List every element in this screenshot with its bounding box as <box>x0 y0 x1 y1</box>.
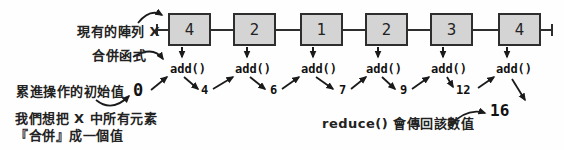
fn-call-add: add() <box>427 62 471 76</box>
accumulator-value: 9 <box>400 83 407 97</box>
fn-call-add: add() <box>362 62 406 76</box>
accumulator-value: 4 <box>201 83 208 97</box>
accumulator-initial-value: 0 <box>133 80 143 100</box>
array-element-box: 4 <box>168 13 211 46</box>
array-element-box: 2 <box>233 13 276 46</box>
fn-call-add: add() <box>297 62 341 76</box>
combine-fn-label: 合併函式 <box>92 48 146 64</box>
fn-call-add: add() <box>166 62 210 76</box>
array-label: 現有的陣列 X <box>77 24 160 40</box>
array-element-box: 1 <box>300 13 343 46</box>
list-right-terminator <box>541 24 552 36</box>
reduce-result-value: 16 <box>490 101 509 120</box>
array-element-box: 3 <box>430 13 473 46</box>
goal-label-line2: 『合併』成一個值 <box>15 128 123 144</box>
box-to-fn-arrows <box>182 47 507 57</box>
accumulator-value: 7 <box>339 83 346 97</box>
reduce-return-label: reduce() 會傳回該數值 <box>322 116 474 132</box>
fn-call-add: add() <box>231 62 275 76</box>
accumulator-value: 6 <box>270 83 277 97</box>
fn-call-add: add() <box>492 62 536 76</box>
goal-label-line1: 我們想把 X 中所有元素 <box>15 111 157 127</box>
array-element-box: 2 <box>365 13 408 46</box>
accumulator-value: 12 <box>456 83 470 97</box>
array-element-box: 4 <box>498 13 541 46</box>
initial-value-label: 累進操作的初始值 <box>16 84 124 100</box>
reduce-diagram: 現有的陣列 X 合併函式 累進操作的初始值 我們想把 X 中所有元素 『合併』成… <box>0 0 564 150</box>
